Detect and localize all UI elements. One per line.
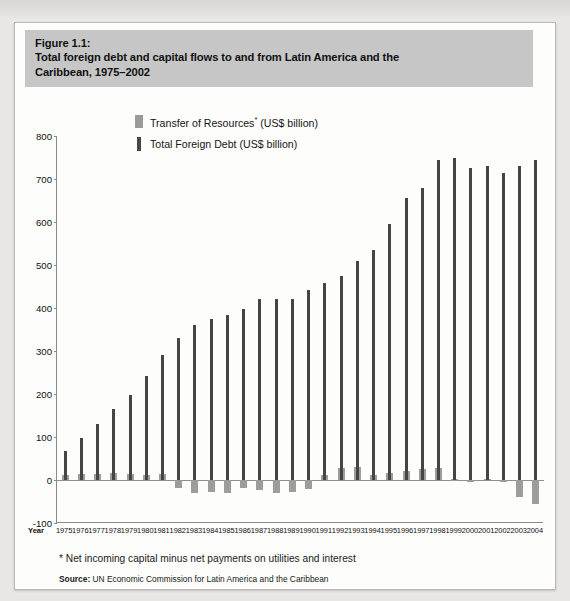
bar-debt bbox=[502, 173, 505, 480]
bar-debt bbox=[112, 409, 115, 480]
figure-footnote: * Net incoming capital minus net payment… bbox=[59, 553, 356, 564]
bar-debt bbox=[437, 160, 440, 480]
legend-swatch-transfer-icon bbox=[135, 115, 143, 128]
legend-transfer-units: (US$ billion) bbox=[257, 116, 318, 128]
figure-page: Figure 1.1: Total foreign debt and capit… bbox=[0, 0, 570, 601]
x-tick-label: 2002 bbox=[494, 526, 510, 535]
bar-transfer bbox=[305, 480, 312, 489]
bar-transfer bbox=[467, 480, 474, 482]
bar-debt bbox=[129, 395, 132, 480]
bar-transfer bbox=[516, 480, 523, 497]
bar-transfer bbox=[256, 480, 263, 490]
x-tick-label: 1997 bbox=[413, 526, 429, 535]
x-tick-label: 1996 bbox=[397, 526, 413, 535]
bar-group bbox=[414, 136, 430, 523]
legend-item-transfer: Transfer of Resources* (US$ billion) bbox=[135, 113, 318, 130]
x-tick-label: 1989 bbox=[283, 526, 299, 535]
x-tick-label: 1999 bbox=[445, 526, 461, 535]
x-tick-label: 1990 bbox=[299, 526, 315, 535]
bar-transfer bbox=[273, 480, 280, 493]
x-tick-label: 1981 bbox=[153, 526, 169, 535]
x-tick-label: 1993 bbox=[348, 526, 364, 535]
bar-debt bbox=[323, 283, 326, 480]
bar-transfer bbox=[224, 480, 231, 493]
bar-group bbox=[187, 136, 203, 523]
bar-group bbox=[57, 136, 73, 523]
x-tick-label: 1975 bbox=[56, 526, 72, 535]
bar-group bbox=[463, 136, 479, 523]
bar-transfer bbox=[240, 480, 247, 488]
bar-debt bbox=[80, 438, 83, 480]
figure-title-band: Figure 1.1: Total foreign debt and capit… bbox=[25, 30, 533, 87]
bar-transfer bbox=[175, 480, 182, 488]
bar-transfer bbox=[289, 480, 296, 492]
bar-debt bbox=[226, 315, 229, 480]
bar-debt bbox=[453, 158, 456, 481]
bar-debt bbox=[340, 276, 343, 480]
bar-transfer bbox=[500, 480, 507, 482]
y-tick-label: 600 bbox=[36, 217, 52, 228]
y-tick-label: 800 bbox=[36, 131, 52, 142]
bar-debt bbox=[388, 224, 391, 480]
bar-debt bbox=[421, 188, 424, 480]
bar-debt bbox=[96, 424, 99, 480]
x-tick-label: 1976 bbox=[72, 526, 88, 535]
figure-source: Source: UN Economic Commission for Latin… bbox=[59, 574, 329, 584]
x-axis-labels: 1975197619771978197919801981198219831984… bbox=[56, 526, 543, 538]
x-tick-label: 2004 bbox=[527, 526, 543, 535]
bar-group bbox=[382, 136, 398, 523]
x-tick-label: 1995 bbox=[381, 526, 397, 535]
figure-label: Figure 1.1: bbox=[35, 36, 523, 50]
y-tick-label: 200 bbox=[36, 389, 52, 400]
bar-transfer bbox=[532, 480, 539, 504]
source-label: Source: bbox=[59, 574, 90, 584]
x-tick-label: 1977 bbox=[88, 526, 104, 535]
bar-group bbox=[219, 136, 235, 523]
y-tick-label: 500 bbox=[36, 260, 52, 271]
x-tick-label: 1998 bbox=[429, 526, 445, 535]
bar-debt bbox=[356, 261, 359, 480]
y-tick-label: 0 bbox=[47, 475, 52, 486]
bar-group bbox=[268, 136, 284, 523]
x-tick-label: 1982 bbox=[170, 526, 186, 535]
bar-debt bbox=[372, 250, 375, 480]
bar-group bbox=[73, 136, 89, 523]
x-tick-label: 2001 bbox=[478, 526, 494, 535]
bar-debt bbox=[291, 299, 294, 480]
x-tick-label: 2000 bbox=[462, 526, 478, 535]
bar-debt bbox=[518, 166, 521, 480]
y-tick-label: 700 bbox=[36, 174, 52, 185]
bar-group bbox=[528, 136, 544, 523]
bar-group bbox=[236, 136, 252, 523]
figure-title-line2: Caribbean, 1975–2002 bbox=[35, 65, 523, 79]
bar-debt bbox=[534, 160, 537, 480]
x-tick-label: 1992 bbox=[332, 526, 348, 535]
x-tick-label: 1983 bbox=[186, 526, 202, 535]
bar-group bbox=[430, 136, 446, 523]
bar-debt bbox=[177, 338, 180, 480]
legend-transfer-text: Transfer of Resources bbox=[150, 116, 254, 128]
bar-group bbox=[301, 136, 317, 523]
figure-frame: Figure 1.1: Total foreign debt and capit… bbox=[14, 22, 556, 590]
bar-group bbox=[284, 136, 300, 523]
bar-group bbox=[398, 136, 414, 523]
bar-debt bbox=[145, 376, 148, 480]
bar-group bbox=[203, 136, 219, 523]
source-text: UN Economic Commission for Latin America… bbox=[93, 574, 329, 584]
bar-debt bbox=[275, 299, 278, 480]
x-tick-label: 1991 bbox=[316, 526, 332, 535]
bar-debt bbox=[161, 355, 164, 480]
bar-group bbox=[171, 136, 187, 523]
bar-group bbox=[138, 136, 154, 523]
bar-group bbox=[89, 136, 105, 523]
y-tick-mark bbox=[54, 523, 57, 524]
x-tick-label: 1988 bbox=[267, 526, 283, 535]
y-tick-label: 300 bbox=[36, 346, 52, 357]
bar-group bbox=[349, 136, 365, 523]
bar-group bbox=[154, 136, 170, 523]
bar-transfer bbox=[208, 480, 215, 492]
bar-debt bbox=[258, 299, 261, 480]
y-tick-label: 400 bbox=[36, 303, 52, 314]
bar-debt bbox=[307, 290, 310, 480]
x-tick-label: 1986 bbox=[234, 526, 250, 535]
